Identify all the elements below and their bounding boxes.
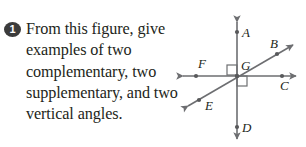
question-text: From this figure, give examples of two c…	[26, 19, 190, 125]
label-a: A	[241, 25, 250, 40]
label-f: F	[197, 56, 207, 71]
question-text-line: From this figure, give	[26, 19, 190, 40]
question-number-badge: 1	[4, 22, 21, 37]
point-b-dot	[275, 52, 279, 56]
question-text-line: supplementary, and two	[26, 83, 190, 104]
label-d: D	[241, 120, 252, 135]
geometry-figure: A B C D E F G	[176, 0, 306, 147]
question-block: 1 From this figure, give examples of two…	[0, 19, 190, 129]
point-f-dot	[194, 74, 198, 78]
point-g-dot	[235, 74, 239, 78]
question-text-line: examples of two	[26, 40, 190, 61]
point-d-dot	[235, 125, 239, 129]
point-a-dot	[235, 30, 239, 34]
question-text-line: vertical angles.	[26, 104, 190, 125]
point-e-dot	[197, 98, 201, 102]
label-e: E	[204, 98, 213, 113]
worksheet-problem-page: 1 From this figure, give examples of two…	[0, 0, 306, 147]
right-angle-mark-upper-left	[227, 65, 237, 75]
question-text-line: complementary, two	[26, 62, 190, 83]
label-c: C	[280, 78, 289, 93]
label-b: B	[270, 36, 278, 51]
label-g: G	[241, 58, 251, 73]
